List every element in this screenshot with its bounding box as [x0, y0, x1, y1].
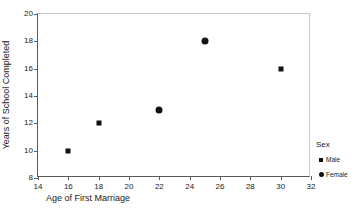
x-tick-mark — [38, 176, 39, 180]
y-tick-label: 14 — [24, 90, 33, 101]
x-tick-mark — [190, 176, 191, 180]
x-tick-label: 16 — [64, 181, 73, 192]
y-tick-label: 12 — [24, 117, 33, 128]
x-tick-label: 22 — [155, 181, 164, 192]
x-tick-mark — [129, 176, 130, 180]
legend-item[interactable]: Male — [316, 155, 352, 164]
x-tick-mark — [250, 176, 251, 180]
x-tick-label: 32 — [307, 181, 316, 192]
plot-area: 8101214161820 14161820222426283032 — [37, 13, 310, 177]
y-tick-mark — [34, 151, 38, 152]
x-tick-mark — [99, 176, 100, 180]
legend-item-label: Male — [326, 155, 340, 164]
legend-marker-icon — [316, 172, 326, 177]
legend: Sex MaleFemale — [316, 140, 352, 185]
y-tick-mark — [34, 14, 38, 15]
y-tick-label: 8 — [29, 172, 33, 183]
x-axis-title: Age of First Marriage — [46, 193, 130, 203]
legend-marker-icon — [316, 158, 326, 162]
y-tick-label: 10 — [24, 145, 33, 156]
y-tick-mark — [34, 41, 38, 42]
y-tick-label: 18 — [24, 35, 33, 46]
x-tick-label: 18 — [94, 181, 103, 192]
y-tick-mark — [34, 96, 38, 97]
legend-title: Sex — [316, 140, 352, 150]
y-tick-label: 20 — [24, 8, 33, 19]
x-tick-label: 24 — [185, 181, 194, 192]
scatter-chart: Years of School Completed 8101214161820 … — [0, 0, 352, 210]
y-axis-title-text: Years of School Completed — [1, 41, 11, 150]
y-tick-label: 16 — [24, 63, 33, 74]
x-tick-mark — [159, 176, 160, 180]
x-tick-mark — [220, 176, 221, 180]
data-point — [201, 38, 208, 45]
x-tick-label: 20 — [125, 181, 134, 192]
y-tick-mark — [34, 123, 38, 124]
data-point — [96, 121, 101, 126]
data-point — [278, 66, 283, 71]
x-tick-mark — [311, 176, 312, 180]
legend-item-label: Female — [326, 170, 348, 179]
x-tick-label: 26 — [216, 181, 225, 192]
legend-items: MaleFemale — [316, 155, 352, 179]
x-tick-mark — [281, 176, 282, 180]
y-axis-title: Years of School Completed — [0, 13, 11, 177]
x-tick-label: 30 — [276, 181, 285, 192]
data-point — [66, 148, 71, 153]
x-tick-mark — [68, 176, 69, 180]
legend-item[interactable]: Female — [316, 170, 352, 179]
x-tick-label: 14 — [34, 181, 43, 192]
x-tick-label: 28 — [246, 181, 255, 192]
data-point — [156, 106, 163, 113]
y-tick-mark — [34, 69, 38, 70]
